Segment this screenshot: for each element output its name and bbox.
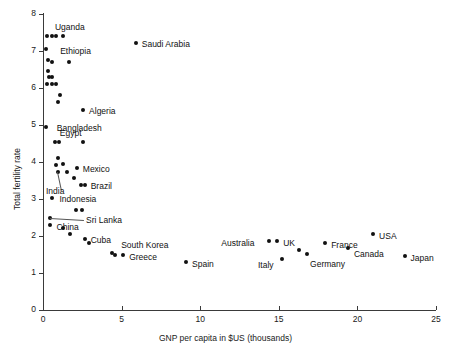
y-tick-label: 6: [20, 82, 36, 92]
data-point-algeria: [81, 108, 85, 112]
data-point: [46, 69, 50, 73]
data-point: [297, 248, 301, 252]
y-tick-label: 8: [20, 8, 36, 18]
y-axis-line: [43, 13, 44, 311]
point-label-uganda: Uganda: [55, 22, 85, 32]
point-label-italy: Italy: [258, 260, 274, 270]
data-point-italy: [280, 257, 284, 261]
point-label-germany: Germany: [310, 259, 345, 269]
y-tick-label: 3: [20, 193, 36, 203]
data-point-ethiopia: [44, 47, 48, 51]
x-tick: [43, 306, 44, 310]
x-axis-line: [43, 310, 436, 311]
data-point: [79, 183, 83, 187]
data-point-mexico: [75, 166, 79, 170]
point-label-south-korea: South Korea: [121, 240, 168, 250]
x-tick: [279, 306, 280, 310]
data-point-bangladesh: [44, 125, 48, 129]
data-point-japan: [403, 254, 407, 258]
point-label-spain: Spain: [192, 259, 214, 269]
y-tick-label: 1: [20, 267, 36, 277]
y-tick-label: 5: [20, 119, 36, 129]
point-label-egypt: Egypt: [60, 128, 82, 138]
data-point-cuba: [83, 237, 87, 241]
data-point: [54, 82, 58, 86]
data-point: [61, 34, 65, 38]
data-point-greece: [121, 253, 125, 257]
data-point: [50, 34, 54, 38]
data-point-uganda: [45, 34, 49, 38]
point-label-china: China: [57, 222, 79, 232]
y-tick: [39, 51, 43, 52]
data-point-usa: [371, 232, 375, 236]
point-label-japan: Japan: [411, 253, 434, 263]
point-label-canada: Canada: [354, 249, 384, 259]
point-label-ethiopia: Ethiopia: [60, 46, 91, 56]
x-tick-label: 5: [107, 314, 137, 324]
point-label-indonesia: Indonesia: [59, 194, 96, 204]
data-point: [61, 162, 65, 166]
data-point: [54, 34, 58, 38]
scatter-chart: 0510152025012345678 UgandaSaudi ArabiaEt…: [0, 0, 451, 360]
data-point: [54, 163, 58, 167]
y-tick: [39, 125, 43, 126]
x-tick: [436, 306, 437, 310]
data-point: [45, 82, 49, 86]
x-tick-label: 20: [342, 314, 372, 324]
x-tick-label: 10: [185, 314, 215, 324]
point-label-brazil: Brazil: [91, 181, 112, 191]
y-tick-label: 7: [20, 45, 36, 55]
data-point-brazil: [83, 183, 87, 187]
x-tick: [357, 306, 358, 310]
y-tick: [39, 162, 43, 163]
label-leader-line: [50, 218, 84, 221]
data-point: [57, 140, 61, 144]
point-label-greece: Greece: [129, 252, 157, 262]
data-point-indonesia: [50, 196, 54, 200]
data-point: [56, 100, 60, 104]
x-tick-label: 0: [28, 314, 58, 324]
data-point: [50, 75, 54, 79]
y-tick: [39, 199, 43, 200]
data-point-spain: [184, 260, 188, 264]
data-point: [65, 170, 69, 174]
x-axis-title: GNP per capita in $US (thousands): [0, 333, 451, 343]
y-tick-label: 0: [20, 304, 36, 314]
x-tick-label: 25: [421, 314, 451, 324]
data-point-saudi-arabia: [134, 41, 138, 45]
x-tick: [122, 306, 123, 310]
x-tick: [200, 306, 201, 310]
point-label-saudi-arabia: Saudi Arabia: [142, 39, 190, 49]
data-point: [58, 93, 62, 97]
y-tick: [39, 310, 43, 311]
data-point: [113, 253, 117, 257]
data-point-uk: [275, 239, 279, 243]
point-label-sri-lanka: Sri Lanka: [86, 215, 122, 225]
y-tick: [39, 236, 43, 237]
y-tick-label: 2: [20, 230, 36, 240]
y-tick: [39, 88, 43, 89]
y-axis-title: Total fertility rate: [12, 148, 22, 210]
data-point-australia: [267, 239, 271, 243]
data-point-germany: [305, 252, 309, 256]
data-point: [74, 208, 78, 212]
data-point: [50, 60, 54, 64]
data-point: [67, 60, 71, 64]
y-tick-label: 4: [20, 156, 36, 166]
point-label-australia: Australia: [221, 238, 254, 248]
point-label-mexico: Mexico: [83, 164, 110, 174]
data-point: [80, 208, 84, 212]
y-tick: [39, 14, 43, 15]
data-point: [68, 232, 72, 236]
data-point: [72, 176, 76, 180]
point-label-cuba: Cuba: [91, 235, 111, 245]
data-point: [81, 140, 85, 144]
point-label-algeria: Algeria: [89, 106, 115, 116]
x-tick-label: 15: [264, 314, 294, 324]
data-point: [56, 156, 60, 160]
point-label-uk: UK: [283, 238, 295, 248]
data-point-china: [48, 223, 52, 227]
point-label-usa: USA: [379, 231, 396, 241]
data-point-france: [323, 241, 327, 245]
y-tick: [39, 273, 43, 274]
